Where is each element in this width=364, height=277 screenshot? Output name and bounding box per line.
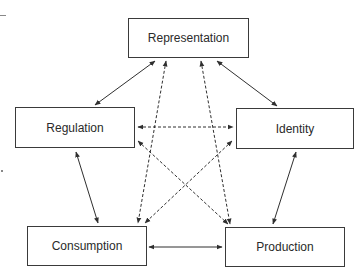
edge-identity-production — [273, 152, 296, 224]
edge-representation-consumption — [138, 61, 166, 223]
edge-representation-production — [201, 61, 230, 224]
scan-dot — [1, 170, 3, 172]
scan-mark — [0, 15, 6, 16]
node-identity: Identity — [236, 108, 354, 149]
edge-representation-regulation — [95, 61, 155, 105]
node-label-representation: Representation — [148, 31, 229, 45]
node-representation: Representation — [128, 18, 249, 58]
node-label-identity: Identity — [276, 122, 315, 136]
node-label-consumption: Consumption — [52, 239, 123, 253]
edge-regulation-consumption — [76, 152, 98, 223]
node-regulation: Regulation — [15, 107, 135, 148]
node-production: Production — [225, 227, 345, 267]
edge-identity-consumption — [145, 141, 232, 223]
node-label-production: Production — [256, 240, 313, 254]
edge-representation-identity — [217, 61, 277, 106]
node-consumption: Consumption — [27, 226, 147, 266]
node-label-regulation: Regulation — [46, 121, 103, 135]
diagram-canvas: Representation Regulation Identity Consu… — [0, 0, 364, 277]
edge-regulation-production — [138, 141, 228, 224]
